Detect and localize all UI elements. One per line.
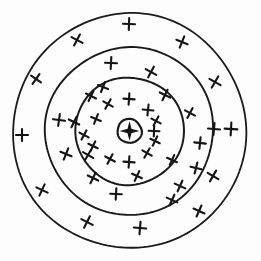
figure-root (0, 0, 261, 261)
concentric-ring-diagram (0, 0, 261, 261)
